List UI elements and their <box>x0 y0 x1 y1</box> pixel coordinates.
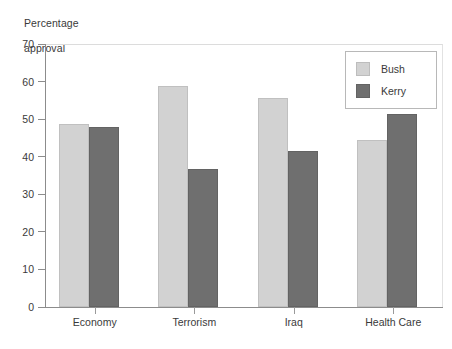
bar-chart-figure: Percentage approval 010203040506070 Econ… <box>0 0 452 349</box>
x-axis-label-economy: Economy <box>73 316 117 328</box>
x-axis-label-terrorism: Terrorism <box>172 316 216 328</box>
y-axis-tick <box>38 307 46 308</box>
legend-label-kerry: Kerry <box>381 86 406 97</box>
bar-economy-bush <box>59 124 89 307</box>
x-axis-tick <box>393 307 394 314</box>
bar-health-care-kerry <box>387 114 417 307</box>
bar-health-care-bush <box>357 140 387 307</box>
y-axis-tick <box>38 119 46 120</box>
y-axis-tick <box>38 231 46 232</box>
y-axis-title-line1: Percentage <box>24 17 79 29</box>
y-axis-tick-label: 30 <box>2 188 34 200</box>
bar-terrorism-bush <box>158 86 188 307</box>
x-axis-tick <box>95 307 96 314</box>
bar-iraq-bush <box>258 98 288 307</box>
y-axis-tick-label: 20 <box>2 226 34 238</box>
y-axis-tick <box>38 156 46 157</box>
legend-item-bush[interactable]: Bush <box>356 60 436 78</box>
bar-economy-kerry <box>89 127 119 307</box>
y-axis-tick-label: 40 <box>2 151 34 163</box>
x-axis-tick <box>294 307 295 314</box>
y-axis-tick <box>38 81 46 82</box>
bar-iraq-kerry <box>288 151 318 307</box>
y-axis-tick-label: 0 <box>2 301 34 313</box>
legend-swatch-kerry-icon <box>356 84 370 98</box>
y-axis-tick <box>38 194 46 195</box>
x-axis-label-iraq: Iraq <box>285 316 303 328</box>
legend-item-kerry[interactable]: Kerry <box>356 82 436 100</box>
bar-terrorism-kerry <box>188 169 218 307</box>
legend: Bush Kerry <box>345 51 437 109</box>
legend-swatch-bush-icon <box>356 62 370 76</box>
y-axis-tick-label: 50 <box>2 113 34 125</box>
y-axis-tick-label: 10 <box>2 263 34 275</box>
y-axis-tick <box>38 269 46 270</box>
x-axis-label-health-care: Health Care <box>365 316 421 328</box>
legend-label-bush: Bush <box>381 64 405 75</box>
y-axis-tick-label: 70 <box>2 38 34 50</box>
y-axis-tick <box>38 44 46 45</box>
x-axis-tick <box>194 307 195 314</box>
y-axis-tick-label: 60 <box>2 76 34 88</box>
